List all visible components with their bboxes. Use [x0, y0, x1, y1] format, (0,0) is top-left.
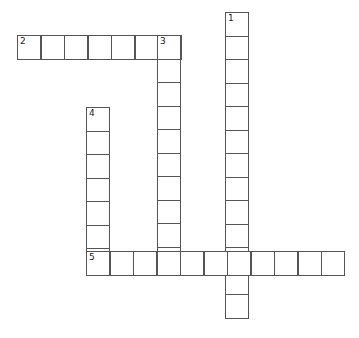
crossword-cell[interactable] [225, 177, 249, 202]
crossword-cell[interactable] [225, 153, 249, 178]
crossword-cell[interactable] [251, 251, 275, 276]
crossword-cell[interactable] [204, 251, 228, 276]
crossword-cell[interactable] [225, 130, 249, 155]
crossword-cell[interactable]: 1 [225, 12, 249, 37]
crossword-cell[interactable] [157, 129, 181, 154]
crossword-cell[interactable] [64, 35, 88, 60]
crossword-cell[interactable] [86, 225, 110, 250]
clue-number: 3 [160, 36, 166, 47]
crossword-cell[interactable]: 3 [157, 35, 181, 60]
crossword-cell[interactable] [225, 294, 249, 319]
crossword-cell[interactable] [225, 59, 249, 84]
crossword-cell[interactable] [86, 201, 110, 226]
crossword-grid: 12345 [0, 0, 359, 338]
crossword-cell[interactable] [41, 35, 65, 60]
crossword-cell[interactable] [157, 176, 181, 201]
crossword-cell[interactable] [86, 178, 110, 203]
clue-number: 4 [89, 108, 95, 119]
crossword-cell[interactable] [225, 36, 249, 61]
crossword-cell[interactable]: 4 [86, 107, 110, 132]
crossword-cell[interactable] [298, 251, 322, 276]
crossword-cell[interactable]: 5 [86, 251, 110, 276]
crossword-cell[interactable]: 2 [17, 35, 41, 60]
crossword-cell[interactable] [274, 251, 298, 276]
crossword-cell[interactable] [225, 200, 249, 225]
crossword-cell[interactable] [88, 35, 112, 60]
crossword-cell[interactable] [157, 153, 181, 178]
crossword-cell[interactable] [135, 35, 159, 60]
crossword-cell[interactable] [321, 251, 345, 276]
crossword-cell[interactable] [157, 200, 181, 225]
crossword-cell[interactable] [157, 59, 181, 84]
crossword-cell[interactable] [225, 106, 249, 131]
crossword-cell[interactable] [111, 35, 135, 60]
crossword-cell[interactable] [157, 106, 181, 131]
crossword-cell[interactable] [157, 251, 181, 276]
crossword-cell[interactable] [86, 131, 110, 156]
crossword-cell[interactable] [225, 224, 249, 249]
crossword-cell[interactable] [133, 251, 157, 276]
crossword-cell[interactable] [157, 82, 181, 107]
crossword-cell[interactable] [180, 251, 204, 276]
crossword-cell[interactable] [157, 223, 181, 248]
crossword-cell[interactable] [110, 251, 134, 276]
crossword-cell[interactable] [225, 83, 249, 108]
clue-number: 5 [89, 252, 95, 263]
crossword-cell[interactable] [86, 154, 110, 179]
clue-number: 2 [20, 36, 26, 47]
crossword-cell[interactable] [227, 251, 251, 276]
clue-number: 1 [228, 13, 234, 24]
